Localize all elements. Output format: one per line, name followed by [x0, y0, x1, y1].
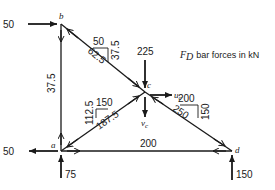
displacement-label-v: vc: [141, 118, 149, 130]
bar-force-bc-dy: 37.5: [110, 40, 121, 60]
load-label-a-vertical: 75: [65, 169, 77, 180]
legend-title: FDbar forces in kN: [179, 49, 259, 62]
load-label-b: 50: [3, 19, 15, 30]
load-label-a-horizontal: 50: [3, 146, 15, 157]
load-label-c: 225: [137, 46, 154, 57]
truss-diagram: 50 50 75 225 150 b a c d uc vc 37.5 200 …: [0, 0, 275, 190]
node-label-b: b: [59, 11, 64, 21]
load-label-d: 150: [236, 169, 253, 180]
bar-force-ad: 200: [140, 138, 157, 149]
bar-force-cd-dx: 200: [178, 93, 195, 104]
node-label-a: a: [51, 140, 56, 150]
node-label-c: c: [147, 80, 151, 90]
bar-force-ab: 37.5: [46, 73, 57, 93]
node-label-d: d: [235, 145, 240, 155]
bar-force-cd-dy: 150: [200, 103, 211, 120]
bar-force-ac-dx: 150: [96, 97, 113, 108]
bar-force-ac-dy: 112.5: [84, 100, 95, 125]
bar-force-bc-dx: 50: [93, 36, 105, 47]
